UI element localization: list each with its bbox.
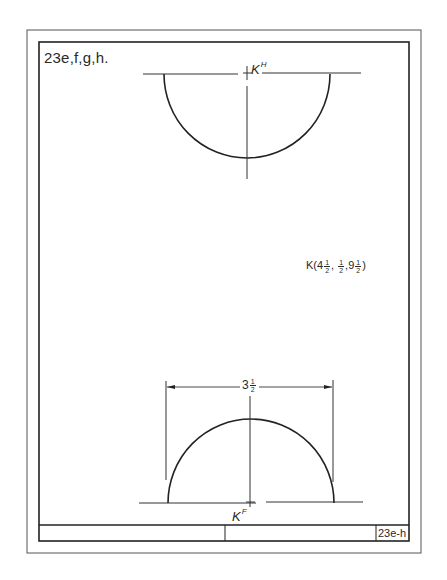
front-view-point-label: KF [232, 507, 247, 524]
coord-y-fraction: 12 [338, 259, 344, 274]
outer-border [27, 30, 421, 553]
dimension-fraction: 12 [250, 378, 256, 393]
coord-point-name: K [306, 259, 313, 271]
problem-id-label: 23e,f,g,h. [44, 49, 109, 66]
top-view-point-label: KH [251, 60, 266, 77]
top-view-point-letter: K [251, 62, 260, 77]
top-view-point-superscript: H [261, 60, 267, 69]
drawing-canvas [0, 0, 447, 580]
dimension-whole: 3 [242, 378, 249, 392]
dimension-value-label: 312 [240, 378, 259, 393]
coord-x-whole: 4 [317, 259, 323, 271]
front-view [139, 380, 363, 507]
front-view-point-letter: K [232, 509, 241, 524]
drawing-sheet: 23e,f,g,h. KH KF K(412, 12,912) 312 23e-… [0, 0, 447, 580]
front-view-point-superscript: F [242, 507, 247, 516]
top-view [143, 66, 361, 179]
coord-z-whole: 9 [348, 259, 354, 271]
coord-z-fraction: 12 [355, 259, 361, 274]
coord-x-fraction: 12 [324, 259, 330, 274]
title-block-number: 23e-h [378, 527, 406, 539]
inner-border [39, 42, 409, 541]
dimension-arrow-left-icon [167, 385, 175, 389]
front-view-semicircle [168, 419, 334, 503]
point-coordinates-label: K(412, 12,912) [306, 259, 366, 274]
dimension-arrow-right-icon [324, 385, 332, 389]
